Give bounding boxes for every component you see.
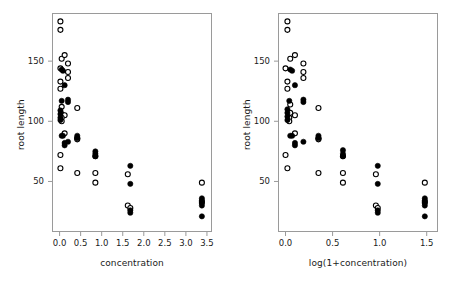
data-point-filled (290, 133, 295, 138)
data-point-filled (422, 203, 427, 208)
data-point-open (285, 79, 290, 84)
data-point-open (301, 61, 306, 66)
data-point-filled (285, 117, 290, 122)
y-axis-label-right: root length (242, 99, 252, 150)
data-point-open (58, 166, 63, 171)
data-point-open (58, 152, 63, 157)
data-point-filled (290, 68, 295, 73)
data-point-open (316, 106, 321, 111)
x-axis-label-right: log(1+concentration) (268, 258, 448, 268)
data-point-open (199, 180, 204, 185)
data-point-open (288, 56, 293, 61)
data-point-open (93, 171, 98, 176)
y-tick-label: 150 (12, 56, 44, 66)
data-point-filled (93, 154, 98, 159)
data-point-filled (292, 143, 297, 148)
data-point-filled (375, 210, 380, 215)
data-point-open (301, 69, 306, 74)
y-tick-label: 50 (238, 176, 270, 186)
data-point-filled (59, 98, 64, 103)
data-point-filled (75, 136, 80, 141)
data-point-open (62, 53, 67, 58)
data-point-filled (340, 154, 345, 159)
data-point-open (292, 53, 297, 58)
data-point-filled (62, 83, 67, 88)
data-point-open (316, 171, 321, 176)
data-point-open (422, 180, 427, 185)
data-point-open (58, 27, 63, 32)
panel-log-concentration: 0.00.51.01.5 50100150 log(1+concentratio… (226, 0, 452, 282)
data-point-filled (128, 181, 133, 186)
data-point-filled (375, 163, 380, 168)
data-point-open (66, 69, 71, 74)
data-point-filled (62, 143, 67, 148)
data-point-open (58, 86, 63, 91)
panel-concentration: 0.00.51.01.52.02.53.03.5 50100150 concen… (0, 0, 226, 282)
data-point-open (301, 75, 306, 80)
data-point-filled (199, 203, 204, 208)
data-point-filled (128, 210, 133, 215)
scatter-plot-figure: 0.00.51.01.52.02.53.03.5 50100150 concen… (0, 0, 452, 282)
data-point-filled (287, 98, 292, 103)
data-point-filled (60, 133, 65, 138)
x-tick-label: 3.5 (192, 238, 222, 248)
data-point-open (340, 171, 345, 176)
data-point-filled (60, 68, 65, 73)
data-point-open (285, 86, 290, 91)
data-point-open (373, 172, 378, 177)
y-tick-label: 50 (12, 176, 44, 186)
data-point-filled (301, 99, 306, 104)
y-axis-label-left: root length (16, 99, 26, 150)
data-point-open (340, 180, 345, 185)
data-point-filled (199, 214, 204, 219)
data-point-open (285, 19, 290, 24)
data-point-open (66, 61, 71, 66)
data-point-filled (422, 214, 427, 219)
data-point-open (58, 19, 63, 24)
data-point-open (283, 66, 288, 71)
x-tick-label: 0.0 (271, 238, 301, 248)
data-point-open (285, 27, 290, 32)
data-point-filled (301, 139, 306, 144)
data-point-filled (292, 83, 297, 88)
data-point-filled (316, 136, 321, 141)
x-tick-label: 1.5 (412, 238, 442, 248)
y-tick-label: 150 (238, 56, 270, 66)
x-tick-label: 1.0 (365, 238, 395, 248)
data-point-open (58, 79, 63, 84)
data-point-filled (65, 99, 70, 104)
data-point-open (283, 152, 288, 157)
data-point-open (292, 113, 297, 118)
x-axis-label-left: concentration (52, 258, 212, 268)
data-point-open (125, 172, 130, 177)
data-point-filled (128, 163, 133, 168)
data-point-open (75, 171, 80, 176)
data-point-open (93, 180, 98, 185)
x-tick-label: 0.5 (318, 238, 348, 248)
data-point-filled (58, 117, 63, 122)
data-point-open (75, 106, 80, 111)
data-point-open (285, 166, 290, 171)
data-point-filled (375, 181, 380, 186)
data-point-open (66, 75, 71, 80)
